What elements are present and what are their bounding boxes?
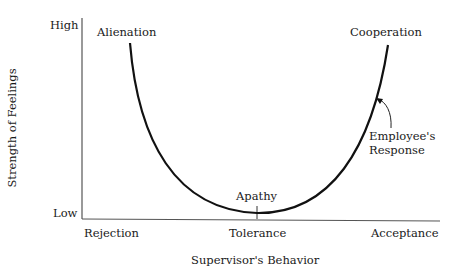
x-axis-title: Supervisor's Behavior	[191, 255, 319, 267]
y-tick-high: High	[50, 20, 78, 32]
x-axis-line	[82, 219, 440, 221]
x-tick-rejection: Rejection	[84, 228, 139, 240]
x-tick-tolerance: Tolerance	[229, 228, 286, 240]
annotation-line-2: Response	[369, 145, 425, 157]
curve-label-alienation: Alienation	[97, 27, 156, 39]
curve-label-cooperation: Cooperation	[350, 27, 422, 39]
curve-label-apathy: Apathy	[236, 191, 277, 203]
y-tick-low: Low	[53, 208, 77, 220]
annotation-line-1: Employee's	[369, 131, 435, 143]
response-curve	[130, 43, 388, 213]
x-tick-acceptance: Acceptance	[371, 228, 438, 240]
y-axis-title: Strength of Feelings	[7, 68, 19, 187]
